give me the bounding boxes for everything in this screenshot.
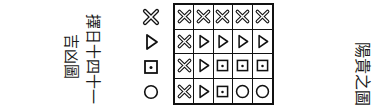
- cross-icon: [176, 57, 193, 74]
- grid-cell-triangle: [233, 30, 252, 55]
- triangle-icon: [214, 33, 231, 50]
- grid-cell-triangle: [194, 30, 213, 55]
- left-text-line-1: 擇日十四十一: [85, 14, 100, 104]
- right-title-text: 陽貴之圖: [355, 42, 370, 106]
- cross-icon: [176, 33, 193, 50]
- grid-cell-triangle: [194, 79, 213, 104]
- dotted-square-icon: [214, 83, 231, 100]
- grid-cell-cross: [253, 5, 272, 30]
- triangle-icon: [195, 57, 212, 74]
- triangle-icon: [195, 83, 212, 100]
- symbol-legend: [140, 4, 162, 104]
- grid-cell-dotted-square: [214, 79, 233, 104]
- grid-cell-cross: [175, 54, 194, 79]
- circle-icon: [254, 83, 271, 100]
- grid-cell-triangle: [214, 30, 233, 55]
- cross-icon: [234, 8, 251, 25]
- left-text-line-2: 吉凶圖: [63, 34, 78, 79]
- grid-cell-dotted-square: [214, 54, 233, 79]
- cross-icon: [140, 4, 162, 29]
- cross-icon: [176, 83, 193, 100]
- grid-cell-triangle: [194, 54, 213, 79]
- grid-cell-circle: [253, 79, 272, 104]
- dotted-square-icon: [234, 57, 251, 74]
- cross-icon: [254, 8, 271, 25]
- grid-cell-cross: [233, 5, 252, 30]
- dotted-square-icon: [214, 57, 231, 74]
- symbol-grid: [173, 3, 274, 105]
- grid-cell-dotted-square: [253, 54, 272, 79]
- triangle-icon: [195, 33, 212, 50]
- triangle-icon: [140, 29, 162, 54]
- grid-cell-circle: [233, 79, 252, 104]
- circle-icon: [234, 83, 251, 100]
- circle-icon: [140, 79, 162, 104]
- grid-cell-cross: [194, 5, 213, 30]
- grid-cell-cross: [214, 5, 233, 30]
- cross-icon: [214, 8, 231, 25]
- cross-icon: [176, 8, 193, 25]
- dotted-square-icon: [254, 57, 271, 74]
- grid-cell-dotted-square: [233, 54, 252, 79]
- grid-cell-cross: [175, 79, 194, 104]
- triangle-icon: [254, 33, 271, 50]
- cross-icon: [195, 8, 212, 25]
- grid-cell-cross: [175, 5, 194, 30]
- grid-cell-cross: [175, 30, 194, 55]
- grid-cell-triangle: [253, 30, 272, 55]
- dotted-square-icon: [140, 54, 162, 79]
- triangle-icon: [234, 33, 251, 50]
